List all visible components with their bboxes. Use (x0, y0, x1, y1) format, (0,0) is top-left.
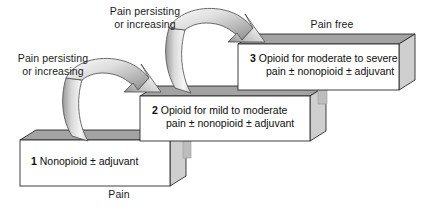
label-arrow2-line1: Pain persisting (110, 5, 180, 17)
arrow-2-tail (166, 28, 191, 93)
step-3-number: 3 (250, 52, 256, 64)
label-pain-free: Pain free (304, 18, 360, 31)
step-3-text: 3 Opioid for moderate to severe pain ± n… (250, 52, 398, 78)
label-arrow1-text: Pain persisting or increasing (8, 52, 98, 77)
label-arrow2-line2: or increasing (114, 18, 175, 30)
step-2-text: 2 Opioid for mild to moderate pain ± non… (152, 104, 294, 130)
step-1-number: 1 (31, 155, 37, 167)
step-1-text: 1 Nonopioid ± adjuvant (31, 155, 138, 168)
label-arrow1-line2: or increasing (22, 65, 83, 77)
label-pain: Pain (99, 188, 139, 201)
step-2-number: 2 (152, 104, 158, 116)
step-2-line2: pain ± nonopioid ± adjuvant (152, 117, 294, 130)
step-2-line1: Opioid for mild to moderate (161, 104, 288, 116)
step-3-line1: Opioid for moderate to severe (259, 52, 398, 64)
label-arrow1-line1: Pain persisting (18, 52, 88, 64)
who-analgesic-ladder-diagram: 1 Nonopioid ± adjuvant 2 Opioid for mild… (0, 0, 430, 210)
step-3-line2: pain ± nonopioid ± adjuvant (250, 65, 398, 78)
step-3-side-face (399, 34, 415, 90)
step-3-top-face (238, 34, 415, 44)
step-1-line1: Nonopioid ± adjuvant (40, 155, 139, 167)
step-2-shadow-connector (183, 141, 191, 158)
label-arrow2-text: Pain persisting or increasing (100, 5, 190, 30)
